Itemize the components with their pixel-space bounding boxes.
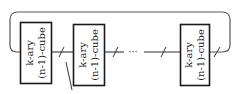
cube-node-3: k-ary (n-1)-cube: [181, 25, 210, 86]
ellipsis: ···: [128, 46, 138, 57]
cube-node-1: k-ary (n-1)-cube: [21, 23, 52, 84]
node-label-line1: k-ary: [77, 42, 88, 68]
node-label-line1: k-ary: [183, 42, 194, 68]
pointer-line: [66, 62, 72, 90]
node-label-line1: k-ary: [24, 40, 35, 66]
node-label-line2: (n-1)-cube: [195, 29, 206, 81]
node-label-line2: (n-1)-cube: [89, 29, 100, 81]
k-ary-n-cube-diagram: ··· k-ary (n-1)-cube k-ary (n-1)-cube k: [0, 0, 246, 94]
node-label-line2: (n-1)-cube: [36, 27, 47, 79]
cube-node-2: k-ary (n-1)-cube: [74, 25, 105, 86]
